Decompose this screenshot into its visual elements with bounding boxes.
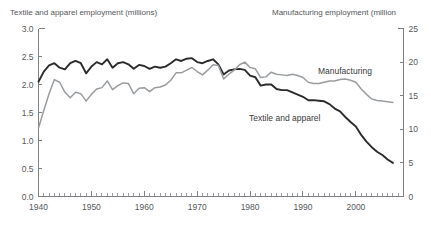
right-tick-label: 0 xyxy=(409,192,414,202)
x-tick-label: 2000 xyxy=(346,202,365,212)
series-annotation-manufacturing: Manufacturing xyxy=(318,66,372,76)
left-tick-label: 1.5 xyxy=(22,108,34,118)
x-tick-label: 1940 xyxy=(29,202,48,212)
right-tick-label: 20 xyxy=(409,57,419,67)
left-tick-label: 1.0 xyxy=(22,136,34,146)
left-tick-label: 2.5 xyxy=(22,52,34,62)
x-tick-label: 1980 xyxy=(241,202,260,212)
right-tick-label: 25 xyxy=(409,24,419,34)
right-tick-label: 5 xyxy=(409,158,414,168)
left-tick-label: 0.0 xyxy=(22,192,34,202)
left-tick-label: 0.5 xyxy=(22,164,34,174)
x-tick-label: 1990 xyxy=(294,202,313,212)
right-tick-label: 15 xyxy=(409,91,419,101)
right-axis-title: Manufacturing employment (million xyxy=(272,8,396,17)
series-annotation-textile-and-apparel: Textile and apparel xyxy=(249,113,320,123)
left-axis-title: Textile and apparel employment (millions… xyxy=(10,8,158,17)
x-tick-label: 1950 xyxy=(82,202,101,212)
chart-figure: Textile and apparel employment (millions… xyxy=(0,0,431,229)
left-tick-label: 2.0 xyxy=(22,80,34,90)
x-tick-label: 1970 xyxy=(188,202,207,212)
left-tick-label: 3.0 xyxy=(22,24,34,34)
right-tick-label: 10 xyxy=(409,124,419,134)
dual-axis-line-chart: Textile and apparel employment (millions… xyxy=(0,0,431,229)
x-tick-label: 1960 xyxy=(135,202,154,212)
